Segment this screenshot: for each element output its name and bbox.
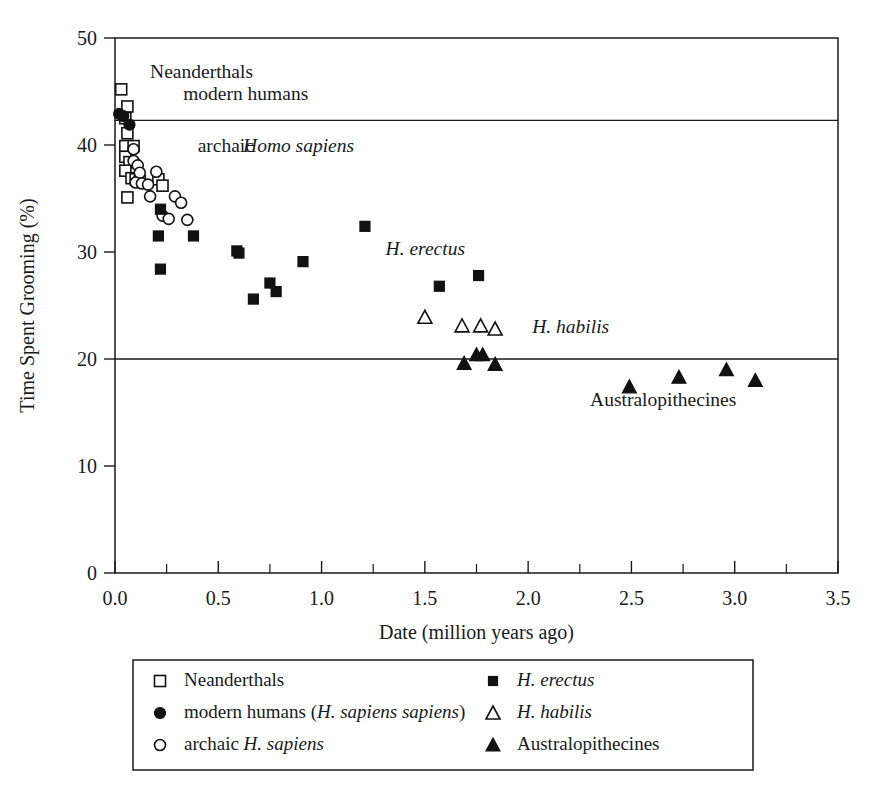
data-point [434,281,444,291]
data-point [155,264,165,274]
legend-marker-filled-triangle [486,738,500,751]
data-point [360,221,370,231]
data-point [457,356,471,369]
annotation-neanderthals: Neanderthals [150,61,253,82]
data-point [163,213,174,224]
data-point [122,192,133,203]
x-tick-label-3.0: 3.0 [722,587,747,609]
legend-modern-humans-label: modern humans (H. sapiens sapiens) [184,701,465,723]
y-axis-title: Time Spent Grooming (%) [16,198,39,412]
annotation-archaic-italic: Homo sapiens [242,135,354,156]
data-point [176,197,187,208]
x-tick-label-3.5: 3.5 [826,587,851,609]
legend-h-habilis[interactable]: H. habilis [486,701,592,722]
legend-australopithecines[interactable]: Australopithecines [486,733,659,754]
legend-marker-filled-square [489,677,498,686]
data-point [155,204,165,214]
legend-neanderthals-label: Neanderthals [184,669,284,690]
legend-archaic-h-sapiens[interactable]: archaic H. sapiens [155,733,324,754]
data-point [182,214,193,225]
data-point [157,180,168,191]
legend-marker-open-triangle [486,706,500,719]
plot-annotations: Neanderthalsmodern humansarchaic Homo sa… [150,61,736,410]
legend-neanderthals[interactable]: Neanderthals [155,669,285,690]
y-tick-label-30: 30 [77,241,97,263]
x-tick-label-2.5: 2.5 [619,587,644,609]
data-point [145,191,156,202]
data-point [248,294,258,304]
y-tick-label-50: 50 [77,27,97,49]
data-point [151,166,162,177]
legend-h-erectus-label: H. erectus [516,669,594,690]
y-tick-label-40: 40 [77,134,97,156]
x-axis-title: Date (million years ago) [379,621,574,644]
annotation-modern-humans: modern humans [183,83,308,104]
legend-australopithecines-label: Australopithecines [517,733,659,754]
annotation-h-erectus: H. erectus [385,238,465,259]
data-point [488,322,502,335]
legend-archaic-h-sapiens-label: archaic H. sapiens [184,733,324,754]
data-point [153,231,163,241]
x-tick-label-2.0: 2.0 [516,587,541,609]
data-point [719,363,733,376]
legend: Neanderthalsmodern humans (H. sapiens sa… [133,660,753,770]
data-point [298,257,308,267]
annotation-australopithecines: Australopithecines [590,389,736,410]
data-point [124,119,135,130]
x-tick-label-1.5: 1.5 [412,587,437,609]
legend-modern-humans[interactable]: modern humans (H. sapiens sapiens) [155,701,466,723]
x-tick-label-1.0: 1.0 [309,587,334,609]
data-point [474,271,484,281]
y-axis: 01020304050Time Spent Grooming (%) [16,27,115,584]
data-point [128,144,139,155]
y-tick-label-10: 10 [77,455,97,477]
data-point [143,179,154,190]
data-point [271,287,281,297]
data-point [474,319,488,332]
data-point [672,370,686,383]
figure-root: 01020304050Time Spent Grooming (%)0.00.5… [0,0,884,800]
annotation-h-habilis: H. habilis [531,316,609,337]
data-point [188,231,198,241]
series-h-habilis [418,310,502,335]
data-point [455,319,469,332]
legend-marker-open-square [155,676,166,687]
legend-marker-open-circle [155,740,166,751]
plot-frame [115,38,838,573]
legend-h-habilis-label: H. habilis [516,701,592,722]
y-tick-label-0: 0 [87,562,97,584]
x-tick-label-0.0: 0.0 [103,587,128,609]
data-point [418,310,432,323]
x-tick-label-0.5: 0.5 [206,587,231,609]
legend-h-erectus[interactable]: H. erectus [489,669,595,690]
data-point [116,84,127,95]
data-point [748,373,762,386]
y-tick-label-20: 20 [77,348,97,370]
data-point [234,248,244,258]
grooming-time-scatter-chart: 01020304050Time Spent Grooming (%)0.00.5… [0,0,884,800]
legend-marker-filled-circle [155,708,166,719]
plot-frame-rect [115,38,838,573]
series-australopithecines [457,348,762,393]
